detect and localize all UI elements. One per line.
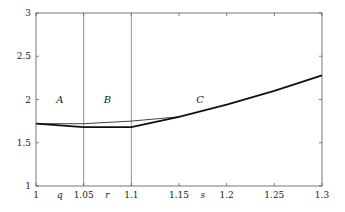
x-tick-label: 1.3 [315,190,330,200]
x-tick-label: 1.1 [124,190,138,200]
y-tick-label: 1.5 [17,138,32,148]
x-tick-label: 1.05 [74,190,94,200]
axis-variable-label-q: q [57,190,63,200]
region-label-A: A [55,94,63,105]
chart: 11.051.11.151.21.251.3 11.522.53 qrs ABC [0,0,345,212]
region-label-B: B [103,94,111,105]
y-tick-label: 1 [25,181,31,191]
series-line-thick [36,75,322,127]
y-tick-label: 2.5 [17,51,32,61]
plot-frame [36,13,322,186]
axis-variable-label-r: r [105,190,110,200]
axis-variable-label-s: s [201,190,206,200]
x-tick-label: 1.25 [264,190,284,200]
x-axis-ticks: 11.051.11.151.21.251.3 [33,13,329,200]
y-tick-label: 2 [25,95,31,105]
data-series [36,75,322,127]
plot-border [36,13,322,186]
x-tick-label: 1.2 [220,190,234,200]
y-tick-label: 3 [25,8,31,18]
series-line-thin [36,117,179,124]
x-tick-label: 1 [33,190,39,200]
region-label-C: C [196,94,204,105]
region-labels: ABC [55,94,204,105]
x-tick-label: 1.15 [169,190,189,200]
